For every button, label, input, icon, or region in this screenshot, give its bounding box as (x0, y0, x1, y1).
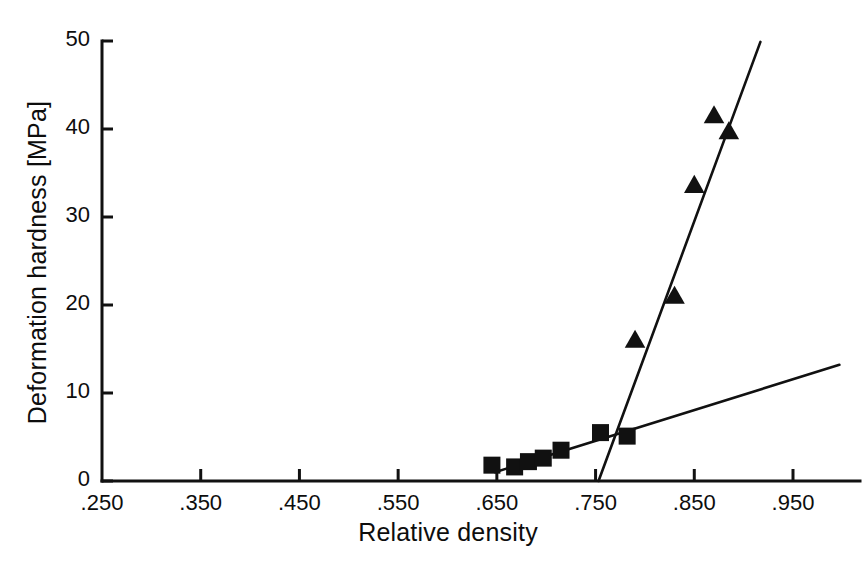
x-tick-label-1: .350 (161, 490, 241, 516)
x-tick-label-5: .750 (556, 490, 636, 516)
fit-lines (495, 42, 840, 481)
x-tick-label-0: .250 (62, 490, 142, 516)
x-tick-label-6: .850 (654, 490, 734, 516)
axes (102, 41, 860, 481)
chart-figure: Deformation hardness [MPa] Relative dens… (0, 0, 868, 575)
triangle-marker-1-4 (719, 121, 740, 139)
square-marker-0-2 (520, 453, 537, 470)
y-tick-label-5: 50 (34, 26, 90, 52)
plot-canvas (0, 0, 868, 575)
x-tick-label-3: .550 (358, 490, 438, 516)
axis-ticks (102, 129, 793, 481)
y-tick-label-3: 30 (34, 202, 90, 228)
x-tick-label-2: .450 (259, 490, 339, 516)
square-marker-0-0 (483, 457, 500, 474)
x-tick-label-7: .950 (753, 490, 833, 516)
x-tick-label-4: .650 (457, 490, 537, 516)
square-marker-0-5 (592, 424, 609, 441)
triangle-marker-1-2 (684, 175, 705, 193)
square-marker-0-3 (535, 450, 552, 467)
square-marker-0-4 (553, 442, 570, 459)
triangle-marker-1-3 (704, 105, 725, 123)
y-tick-label-2: 20 (34, 290, 90, 316)
triangle-marker-1-0 (625, 330, 646, 348)
y-tick-label-4: 40 (34, 114, 90, 140)
data-markers (483, 105, 739, 475)
square-marker-0-6 (619, 428, 636, 445)
y-tick-label-0: 0 (34, 466, 90, 492)
y-tick-label-1: 10 (34, 378, 90, 404)
